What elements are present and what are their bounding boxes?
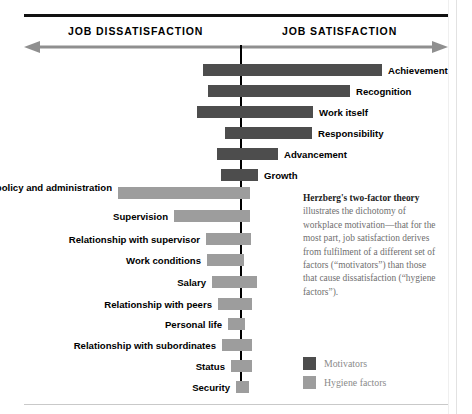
chart-legend: MotivatorsHygiene factors	[303, 357, 443, 395]
bar-supervision	[174, 210, 250, 222]
legend-label-motivator: Motivators	[324, 358, 367, 369]
bar-label-personal-life: Personal life	[32, 319, 222, 330]
bar-responsibility	[225, 127, 312, 139]
bar-label-growth: Growth	[264, 170, 298, 181]
description-lead: Herzberg's two-factor theory	[303, 193, 419, 203]
bar-label-responsibility: Responsibility	[318, 128, 384, 139]
bar-company-policy-and-administration	[118, 187, 250, 199]
description-text: Herzberg's two-factor theory illustrates…	[303, 192, 439, 299]
bar-relationship-with-peers	[218, 298, 252, 310]
bar-label-achievement: Achievement	[388, 65, 448, 76]
bar-advancement	[217, 148, 278, 160]
bar-label-salary: Salary	[16, 277, 206, 288]
bar-work-itself	[197, 106, 313, 118]
legend-swatch-motivator	[303, 357, 316, 370]
bar-personal-life	[228, 318, 245, 330]
bar-label-advancement: Advancement	[284, 149, 347, 160]
page-gutter-rule-outer	[456, 0, 457, 414]
bar-label-company-policy-and-administration: Company policy and administration	[0, 182, 112, 193]
bar-security	[236, 381, 249, 393]
bottom-divider-rule	[24, 404, 448, 405]
bar-recognition	[208, 85, 350, 97]
bar-label-status: Status	[35, 361, 225, 372]
bar-label-relationship-with-supervisor: Relationship with supervisor	[10, 234, 200, 245]
bar-relationship-with-supervisor	[206, 233, 251, 245]
legend-item-hygiene: Hygiene factors	[303, 376, 443, 389]
bar-label-recognition: Recognition	[356, 86, 411, 97]
page-gutter-rule-inner	[448, 0, 449, 414]
bar-salary	[212, 276, 257, 288]
bar-label-work-conditions: Work conditions	[11, 255, 201, 266]
bar-status	[231, 360, 252, 372]
bar-label-relationship-with-peers: Relationship with peers	[22, 299, 212, 310]
bar-relationship-with-subordinates	[222, 339, 252, 351]
bar-work-conditions	[207, 254, 244, 266]
bar-label-relationship-with-subordinates: Relationship with subordinates	[26, 340, 216, 351]
bar-label-security: Security	[40, 382, 230, 393]
legend-label-hygiene: Hygiene factors	[324, 377, 386, 388]
legend-item-motivator: Motivators	[303, 357, 443, 370]
bar-achievement	[203, 64, 382, 76]
legend-swatch-hygiene	[303, 376, 316, 389]
herzberg-two-factor-figure: JOB DISSATISFACTION JOB SATISFACTION Ach…	[0, 0, 472, 414]
bar-growth	[221, 169, 258, 181]
bar-label-supervision: Supervision	[0, 211, 168, 222]
bar-label-work-itself: Work itself	[319, 107, 368, 118]
description-body: illustrates the dichotomy of workplace m…	[303, 206, 436, 296]
